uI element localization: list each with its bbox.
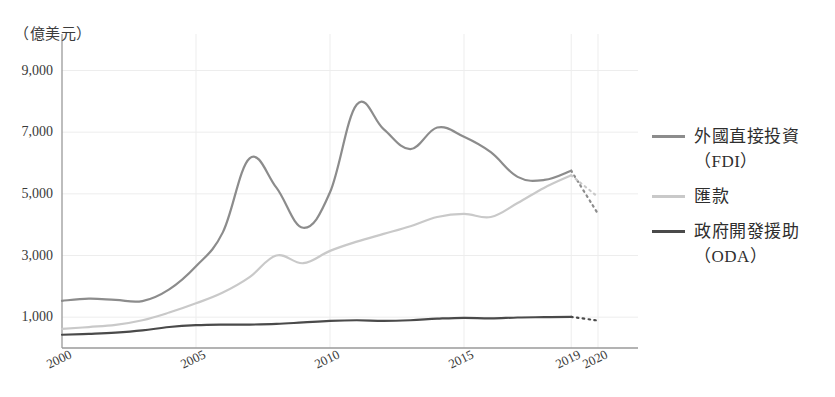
- legend-item-remittances[interactable]: 匯款: [652, 184, 835, 209]
- legend-line-swatch-icon: [652, 195, 685, 198]
- legend-line-swatch-icon: [652, 135, 685, 138]
- chart-legend: 外國直接投資 （FDI）匯款政府開發援助 （ODA）: [652, 124, 835, 279]
- legend-item-fdi[interactable]: 外國直接投資 （FDI）: [652, 124, 835, 174]
- y-axis-tick-label: 5,000: [22, 186, 54, 202]
- y-axis-tick-label: 9,000: [22, 63, 54, 79]
- chart-figure: （億美元） 1,0003,0005,0007,0009,000 20002005…: [0, 0, 835, 397]
- legend-item-label: 匯款: [694, 184, 729, 209]
- y-axis-tick-label: 7,000: [22, 124, 54, 140]
- y-axis-tick-label: 3,000: [22, 248, 54, 264]
- y-axis-tick-label: 1,000: [22, 309, 54, 325]
- legend-item-oda[interactable]: 政府開發援助 （ODA）: [652, 219, 835, 269]
- legend-item-label: 政府開發援助 （ODA）: [694, 219, 799, 269]
- legend-line-swatch-icon: [652, 230, 685, 233]
- legend-item-label: 外國直接投資 （FDI）: [694, 124, 799, 174]
